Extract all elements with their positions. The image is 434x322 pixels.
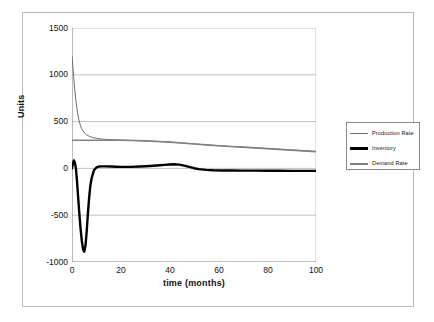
x-tick-40: 40 <box>155 266 185 275</box>
plot-area <box>72 28 316 262</box>
y-axis-title: Units <box>16 95 26 119</box>
y-tick-1000: 1000 <box>22 70 68 79</box>
x-tick-20: 20 <box>106 266 136 275</box>
chart-container: 1500 1000 500 0 -500 -1000 0 20 40 60 80… <box>0 0 434 322</box>
chart-legend: Production Rate Inventory Demand Rate <box>346 122 420 170</box>
axis-lines <box>72 28 316 262</box>
legend-label-demand-rate: Demand Rate <box>372 161 408 167</box>
legend-item-demand-rate: Demand Rate <box>350 157 416 170</box>
x-tick-100: 100 <box>301 266 331 275</box>
x-tick-0: 0 <box>57 266 87 275</box>
y-tick-neg500: -500 <box>22 211 68 220</box>
legend-swatch-production-rate <box>350 133 368 134</box>
legend-item-inventory: Inventory <box>350 142 416 155</box>
legend-item-production-rate: Production Rate <box>350 127 416 140</box>
series-lines <box>72 56 316 252</box>
legend-label-inventory: Inventory <box>372 146 396 152</box>
x-tick-60: 60 <box>204 266 234 275</box>
legend-label-production-rate: Production Rate <box>372 131 414 137</box>
axis-ticks <box>72 28 316 262</box>
y-tick-0: 0 <box>22 164 68 173</box>
legend-swatch-inventory <box>350 147 368 150</box>
y-tick-500: 500 <box>22 117 68 126</box>
legend-swatch-demand-rate <box>350 163 368 165</box>
x-axis-title: time (months) <box>72 278 316 288</box>
x-tick-80: 80 <box>253 266 283 275</box>
gridlines <box>72 28 316 215</box>
plot-svg <box>72 28 316 262</box>
y-tick-1500: 1500 <box>22 24 68 33</box>
